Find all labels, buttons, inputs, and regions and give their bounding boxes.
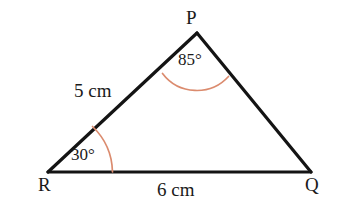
vertex-label-P: P — [186, 8, 197, 27]
side-PQ-line — [197, 33, 311, 172]
triangle-drawing — [0, 0, 347, 206]
angle-arc-P — [163, 74, 229, 91]
angle-label-R: 30° — [71, 146, 95, 163]
side-label-PR: 5 cm — [74, 81, 111, 100]
angle-arc-R — [93, 127, 113, 173]
vertex-label-R: R — [38, 175, 51, 194]
vertex-label-Q: Q — [305, 175, 319, 194]
geometry-figure: P R Q 5 cm 6 cm 85° 30° — [0, 0, 347, 206]
angle-label-P: 85° — [178, 51, 202, 68]
side-label-RQ: 6 cm — [157, 180, 194, 199]
